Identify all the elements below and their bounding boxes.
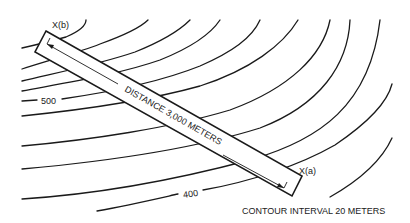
- contour-line: [22, 20, 350, 169]
- elevation-label-500: 500: [41, 96, 56, 106]
- contour-interval-caption: CONTOUR INTERVAL 20 METERS: [242, 206, 385, 216]
- point-a-label: X(a): [299, 166, 316, 176]
- elevation-label-400: 400: [182, 188, 198, 200]
- contour-line: [330, 138, 392, 197]
- contour-map-diagram: DISTANCE 3,000 METERS X(b) X(a) 500 400 …: [0, 0, 410, 223]
- point-b-label: X(b): [52, 20, 69, 30]
